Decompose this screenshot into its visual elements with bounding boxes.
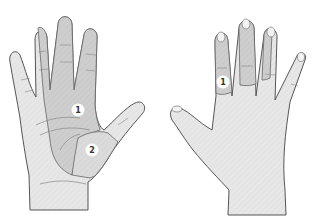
marker-palm-2: 2 — [86, 144, 99, 157]
dorsal-region-1-middle — [239, 21, 256, 86]
palm-hand: 1 2 — [10, 17, 145, 210]
svg-text:2: 2 — [89, 146, 95, 155]
dorsal-outline — [170, 21, 305, 216]
marker-palm-1: 1 — [72, 104, 85, 117]
marker-dorsal-1: 1 — [217, 76, 230, 89]
hands-diagram: 1 2 — [0, 0, 314, 223]
svg-text:1: 1 — [75, 106, 81, 115]
svg-text:1: 1 — [220, 78, 226, 87]
dorsal-hand: 1 — [170, 19, 305, 215]
